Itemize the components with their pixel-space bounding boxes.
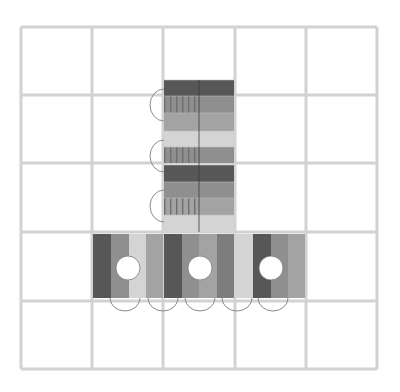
strip-band [288,234,305,298]
segment-left [164,165,199,182]
segment-left [164,113,199,131]
segment-right [199,182,234,198]
segment-right [199,96,234,113]
diagram-canvas [0,0,400,392]
segment-left [164,80,199,96]
segment-right [199,113,234,131]
strip-band [236,234,253,298]
vertical-column [164,80,234,232]
strip-band [217,234,234,298]
stripe-fill [164,96,199,113]
hole-circle [188,256,212,280]
strip-band [93,234,111,298]
segment-right [199,215,234,232]
segment-right [199,80,234,96]
hole-circle [116,256,140,280]
segment-right [199,165,234,182]
strip-band [164,234,182,298]
segment-left [164,182,199,198]
horizontal-strip [93,234,305,298]
hole-circle [259,256,283,280]
segment-left [164,131,199,147]
segment-right [199,131,234,147]
segment-right [199,147,234,163]
segment-right [199,198,234,215]
segment-left [164,215,199,232]
stripe-fill [164,198,199,215]
stripe-fill [164,147,199,163]
strip-band [146,234,163,298]
